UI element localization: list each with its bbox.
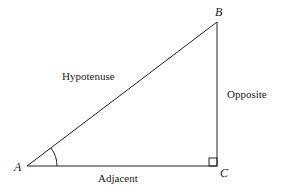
right-angle-marker-icon — [209, 158, 217, 166]
opposite-label: Opposite — [227, 88, 267, 100]
vertex-b-label: B — [215, 5, 222, 20]
vertex-c-label: C — [220, 166, 228, 181]
hypotenuse-label: Hypotenuse — [62, 70, 115, 82]
adjacent-label: Adjacent — [98, 172, 138, 184]
angle-arc-icon — [51, 148, 57, 166]
vertex-a-label: A — [14, 160, 21, 175]
hypotenuse-side — [27, 22, 217, 166]
